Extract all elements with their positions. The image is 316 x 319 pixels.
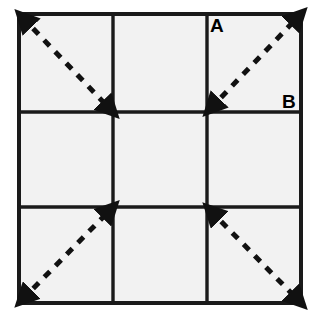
grid-diagram-svg: A B xyxy=(0,0,316,319)
point-label-a: A xyxy=(210,15,224,36)
diagram-canvas: A B xyxy=(0,0,316,319)
point-label-b: B xyxy=(282,91,296,112)
